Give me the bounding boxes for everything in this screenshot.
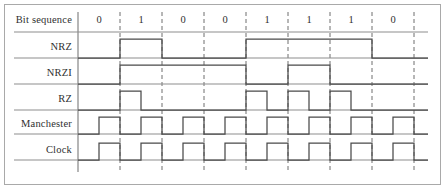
row-label-manchester: Manchester	[21, 118, 72, 129]
bit-value: 1	[264, 14, 269, 25]
row-label-nrzi: NRZI	[47, 67, 73, 78]
bit-value: 0	[180, 14, 185, 25]
waveform-group	[78, 39, 428, 160]
waveform-nrzi	[78, 65, 428, 84]
timing-diagram-svg: Bit sequence NRZ NRZI RZ Manchester Cloc…	[0, 0, 445, 189]
row-label-bit-sequence: Bit sequence	[16, 14, 72, 25]
waveform-clock	[78, 143, 428, 160]
bit-value: 0	[390, 14, 395, 25]
row-label-clock: Clock	[46, 144, 73, 155]
waveform-manchester	[78, 117, 428, 134]
waveform-baselines	[14, 32, 428, 160]
bit-value: 1	[138, 14, 143, 25]
timing-diagram-figure: Bit sequence NRZ NRZI RZ Manchester Cloc…	[0, 0, 445, 189]
bit-value: 1	[348, 14, 353, 25]
row-label-rz: RZ	[58, 93, 72, 104]
bit-value: 0	[96, 14, 101, 25]
waveform-rz	[78, 91, 428, 110]
row-label-nrz: NRZ	[50, 41, 72, 52]
bit-value: 1	[306, 14, 311, 25]
bit-value: 0	[222, 14, 227, 25]
waveform-nrz	[78, 39, 428, 58]
